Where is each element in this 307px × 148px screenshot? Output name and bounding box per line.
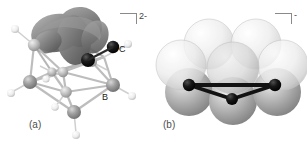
bracket-vertical-icon — [291, 13, 292, 24]
charge-label: - — [294, 10, 297, 20]
panel-a-structure — [0, 0, 153, 148]
panel-b: - (b) — [153, 0, 307, 148]
panel-caption-a: (a) — [29, 119, 41, 130]
bracket-horizontal-icon — [275, 13, 292, 14]
bracket-vertical-icon — [136, 13, 137, 24]
atom-label-boron: B — [102, 92, 108, 102]
panel-a: C B 2- (a) — [0, 0, 153, 148]
upper-spheres — [156, 19, 307, 94]
panel-caption-b: (b) — [163, 119, 175, 130]
charge-label: 2- — [139, 11, 147, 21]
atom-label-carbon: C — [119, 44, 126, 54]
figure-container: C B 2- (a) — [0, 0, 307, 148]
panel-b-structure — [153, 0, 307, 148]
bracket-horizontal-icon — [120, 13, 137, 14]
